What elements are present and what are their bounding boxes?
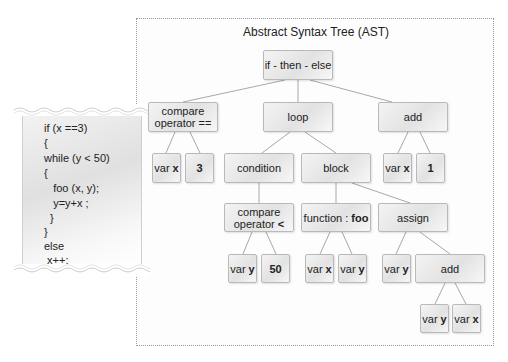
node-value: 3 — [196, 162, 202, 174]
node-label-line2: operator < — [234, 218, 284, 230]
node-const-1: 1 — [416, 153, 445, 183]
code-line: y=y+x ; — [44, 197, 89, 209]
node-prefix: var — [154, 162, 169, 174]
code-line: if (x ==3) — [44, 122, 87, 134]
code-line: { — [44, 167, 48, 179]
node-prefix: var — [307, 263, 322, 275]
node-var-name: x — [326, 263, 332, 275]
node-prefix: function : — [304, 212, 349, 224]
node-if-then-else: if - then - else — [263, 50, 333, 80]
code-line: } — [44, 226, 48, 238]
node-add-inner: add — [415, 254, 485, 283]
node-const-3: 3 — [185, 153, 214, 183]
node-var-y: var y — [420, 304, 449, 333]
node-label: loop — [288, 111, 309, 123]
node-var-x: var x — [452, 304, 481, 333]
node-value: 1 — [427, 162, 433, 174]
node-compare-less: compare operator < — [224, 203, 294, 232]
node-var-name: x — [404, 162, 410, 174]
node-label: if - then - else — [265, 59, 332, 71]
node-function-foo: function : foo — [301, 203, 371, 232]
node-var-name: x — [173, 162, 179, 174]
node-var-name: y — [403, 263, 409, 275]
node-label: add — [441, 263, 459, 275]
node-prefix: var — [385, 162, 400, 174]
node-operator: < — [278, 218, 284, 230]
node-prefix: var — [454, 313, 469, 325]
node-var-name: y — [441, 313, 447, 325]
node-var-name: y — [249, 263, 255, 275]
node-var-x: var x — [305, 254, 334, 283]
node-value: 50 — [269, 263, 281, 275]
node-var-y: var y — [338, 254, 367, 283]
node-loop: loop — [263, 102, 333, 132]
node-prefix: var — [384, 263, 399, 275]
wavy-tear-top — [14, 104, 150, 116]
node-var-x: var x — [383, 153, 412, 183]
node-prefix: var — [422, 313, 437, 325]
code-line: foo (x, y); — [44, 182, 99, 194]
node-label-line1: compare — [238, 206, 281, 218]
node-label-text: operator — [234, 218, 275, 230]
code-line: } — [44, 212, 54, 224]
node-block: block — [301, 153, 371, 183]
node-const-50: 50 — [261, 254, 290, 283]
code-line: while (y < 50) — [44, 152, 110, 164]
node-label: add — [404, 111, 422, 123]
node-label: block — [323, 162, 349, 174]
node-var-name: y — [359, 263, 365, 275]
node-var-y: var y — [228, 254, 257, 283]
code-line: else — [44, 240, 64, 252]
node-var-y: var y — [382, 254, 411, 283]
node-label: condition — [237, 162, 281, 174]
node-label-line1: compare — [162, 105, 205, 117]
node-compare-equal: compare operator == — [148, 102, 218, 132]
node-var-x: var x — [152, 153, 181, 183]
node-function-name: foo — [351, 212, 368, 224]
code-line: { — [44, 137, 48, 149]
node-add-top: add — [378, 102, 448, 132]
node-label-line2: operator == — [155, 117, 212, 129]
node-label: assign — [397, 212, 429, 224]
node-prefix: var — [340, 263, 355, 275]
source-code-panel: if (x ==3) { while (y < 50) { foo (x, y)… — [22, 112, 142, 266]
node-assign: assign — [378, 203, 448, 232]
node-condition: condition — [224, 153, 294, 183]
wavy-tear-bottom — [14, 264, 150, 276]
node-prefix: var — [230, 263, 245, 275]
node-var-name: x — [473, 313, 479, 325]
